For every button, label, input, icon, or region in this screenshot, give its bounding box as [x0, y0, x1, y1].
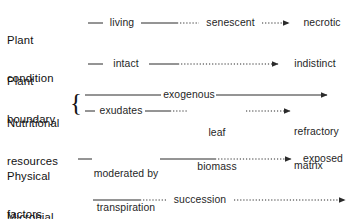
stage-leaf-biomass-line-2: biomass — [188, 161, 246, 172]
row-label-line-1: Microbial — [7, 211, 63, 219]
row-label-line-1: Physical — [7, 170, 50, 183]
row-label-line-1: Plant — [7, 34, 54, 47]
stage-exudates: exudates — [96, 105, 146, 117]
stage-refractory-matrix: refractory matrix — [294, 104, 354, 194]
stage-necrotic: necrotic — [295, 17, 349, 29]
stage-moderated-by-transpiration: moderated by transpiration — [92, 146, 160, 219]
decomposition-gradient-diagram: Plant condition living senescent necroti… — [0, 0, 356, 219]
stage-moderated-line-1: moderated by — [92, 168, 160, 179]
row-label-line-1: Nutritional — [7, 117, 60, 130]
stage-exposed: exposed — [297, 153, 349, 165]
row-label-line-1: Plant — [7, 75, 55, 88]
stage-indistinct: indistinct — [284, 58, 346, 70]
stage-intact: intact — [105, 58, 147, 70]
stage-succession: succession — [166, 194, 234, 206]
stage-leaf-biomass: leaf biomass — [188, 105, 246, 195]
stage-senescent: senescent — [199, 17, 262, 29]
stage-living: living — [104, 17, 140, 29]
stage-refractory-matrix-line-1: refractory — [294, 126, 354, 137]
stage-exogenous: exogenous — [161, 89, 217, 101]
nutritional-resources-brace: { — [70, 90, 82, 115]
row-label-microbial-community: Microbial community — [7, 186, 63, 219]
stage-moderated-line-2: transpiration — [92, 202, 160, 213]
stage-leaf-biomass-line-1: leaf — [188, 127, 246, 138]
